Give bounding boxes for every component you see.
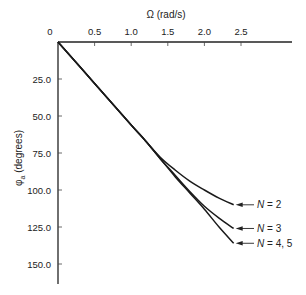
series-labels: N = 2N = 3N = 4, 5	[236, 199, 293, 248]
series-curve-n-3	[58, 42, 234, 228]
x-tick-label: 2.0	[198, 26, 211, 37]
y-tick-label: 25.0	[33, 74, 52, 85]
y-tick-label: 50.0	[33, 111, 52, 122]
series-label: N = 4, 5	[257, 238, 293, 249]
series-label: N = 2	[257, 199, 282, 210]
arrowhead-icon	[236, 226, 243, 230]
series-label: N = 3	[257, 223, 282, 234]
line-chart: 00.51.01.52.02.5 25.050.075.0100.0125.01…	[0, 0, 306, 295]
x-tick-label: 1.5	[161, 26, 174, 37]
x-axis-title: Ω (rad/s)	[146, 9, 185, 20]
arrowhead-icon	[236, 203, 243, 207]
x-tick-label: 0	[47, 26, 52, 37]
y-tick-label: 75.0	[33, 148, 52, 159]
y-tick-label: 150.0	[27, 259, 51, 270]
y-axis-title: φa (degrees)	[13, 130, 26, 186]
x-tick-label: 2.5	[234, 26, 247, 37]
x-axis: 00.51.01.52.02.5	[47, 26, 292, 46]
x-tick-label: 1.0	[125, 26, 138, 37]
series-curve-n-2	[58, 42, 234, 205]
series-curve-n-4-5	[58, 42, 234, 243]
y-tick-label: 100.0	[27, 185, 51, 196]
y-axis: 25.050.075.0100.0125.0150.0	[27, 42, 62, 284]
series-curves	[58, 42, 234, 243]
arrowhead-icon	[236, 241, 243, 245]
y-tick-label: 125.0	[27, 222, 51, 233]
x-tick-label: 0.5	[88, 26, 101, 37]
